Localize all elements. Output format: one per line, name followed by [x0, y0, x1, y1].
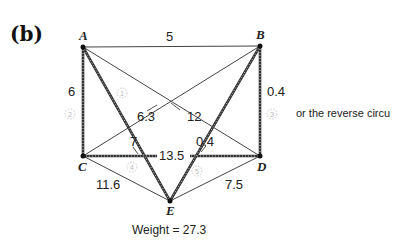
total-weight: Weight = 27.3 [132, 223, 206, 237]
weight-c-e: 11.6 [96, 177, 120, 192]
svg-text:5: 5 [195, 168, 199, 175]
graph-diagram: A B C D E 5 6 0.4 6.3 12 7 0.4 13.5 11.6… [0, 0, 414, 245]
vertex-label-c: C [78, 159, 87, 174]
weight-c-d: 13.5 [159, 148, 184, 163]
svg-text:3: 3 [270, 111, 274, 118]
weight-d-e: 7.5 [225, 177, 243, 192]
reverse-circuit-note: or the reverse circu [296, 107, 390, 119]
weight-b-d: 0.4 [267, 84, 285, 99]
vertex-a [81, 45, 86, 50]
weight-a-e: 7 [130, 134, 137, 149]
vertex-label-e: E [165, 203, 175, 218]
weight-a-b: 5 [166, 29, 173, 44]
weight-b-c: 6.3 [137, 109, 155, 124]
svg-text:1: 1 [120, 90, 124, 97]
vertex-c [81, 154, 86, 159]
edge-a-b [83, 46, 260, 47]
vertex-label-b: B [255, 27, 265, 42]
vertex-b [258, 44, 263, 49]
svg-text:4: 4 [130, 164, 134, 171]
vertex-label-a: A [78, 28, 88, 43]
vertex-label-d: D [256, 159, 267, 174]
edge-b-e-circuit [170, 46, 260, 201]
vertex-d [258, 154, 263, 159]
svg-text:2: 2 [68, 111, 72, 118]
weight-a-d: 12 [187, 109, 201, 124]
weight-a-c: 6 [68, 84, 75, 99]
weight-b-e: 0.4 [196, 134, 214, 149]
